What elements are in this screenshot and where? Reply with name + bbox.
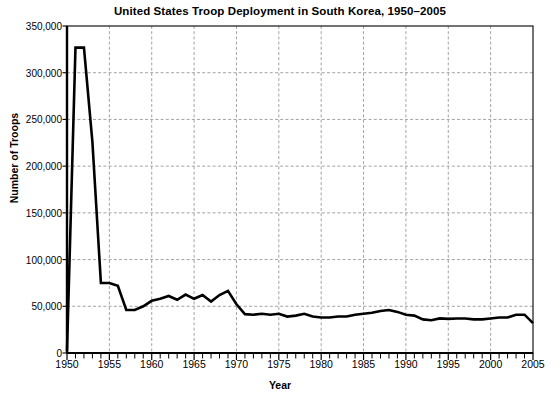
plot-frame xyxy=(67,26,533,353)
plot-area xyxy=(0,0,560,402)
gridlines xyxy=(67,26,533,353)
chart-figure: United States Troop Deployment in South … xyxy=(0,0,560,402)
data-line-series xyxy=(67,48,533,352)
data-line xyxy=(67,48,533,352)
axis-frame xyxy=(67,26,533,353)
